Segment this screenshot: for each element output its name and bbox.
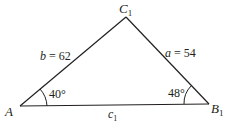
side-label-a-value: = 54 xyxy=(171,46,196,60)
vertex-label-c-sub: 1 xyxy=(128,8,133,18)
vertex-label-a: A xyxy=(4,104,13,119)
side-b xyxy=(20,17,126,106)
side-label-c: c1 xyxy=(108,107,117,123)
vertex-label-c: C1 xyxy=(119,1,132,18)
side-c xyxy=(20,104,209,106)
side-label-b: b = 62 xyxy=(40,49,71,63)
vertex-label-b-sub: 1 xyxy=(219,108,224,118)
angle-arc-a xyxy=(40,89,47,106)
triangle-diagram: A B1 C1 b = 62 a = 54 c1 40° 48° xyxy=(0,0,226,124)
angle-arc-b xyxy=(184,86,191,104)
side-label-b-value: = 62 xyxy=(46,49,71,63)
angle-label-a: 40° xyxy=(49,87,66,101)
vertex-label-b-letter: B xyxy=(211,101,219,116)
vertex-label-c-letter: C xyxy=(119,1,128,16)
side-label-a: a = 54 xyxy=(165,46,196,60)
vertex-label-b: B1 xyxy=(211,101,223,118)
side-label-c-sub: 1 xyxy=(113,114,117,123)
angle-label-b: 48° xyxy=(168,86,185,100)
